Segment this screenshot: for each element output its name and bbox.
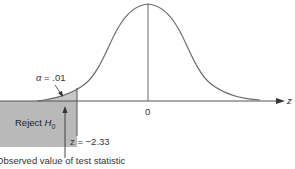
alpha-value: .01 — [52, 72, 65, 83]
alpha-label: α = .01 — [36, 73, 65, 83]
mean-zero-label: 0 — [145, 107, 150, 117]
alpha-tail-area — [37, 90, 77, 101]
reject-region-label: Reject H0 — [15, 118, 55, 130]
axis-arrowhead — [276, 98, 285, 104]
normal-distribution-diagram: α = .01 Reject H0 0 z z = −2.33 Observed… — [0, 0, 295, 169]
observed-value-label: Observed value of test statistic — [0, 156, 125, 166]
z-axis-label: z — [287, 96, 292, 106]
critical-value-label: z = −2.33 — [70, 137, 110, 147]
